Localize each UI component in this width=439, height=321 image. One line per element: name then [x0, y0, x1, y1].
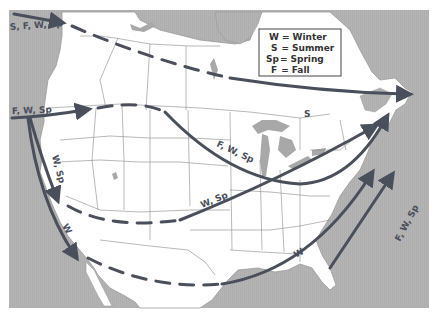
legend-item-summer: S=Summer: [271, 43, 335, 53]
legend-item-winter: W=Winter: [269, 32, 327, 42]
label-summer-north: S: [304, 109, 310, 119]
label-central-west: F, W, Sp: [12, 105, 53, 116]
map-canvas: W=Winter S=Summer Sp=Spring F=Fall: [0, 0, 439, 321]
flyway-map: W=Winter S=Summer Sp=Spring F=Fall: [0, 0, 439, 321]
legend-item-spring: Sp=Spring: [266, 54, 324, 64]
legend: W=Winter S=Summer Sp=Spring F=Fall: [259, 29, 341, 76]
